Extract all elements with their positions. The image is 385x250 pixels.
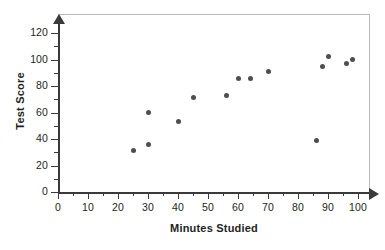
y-tick-major — [51, 166, 59, 167]
x-tick-minor — [283, 192, 284, 196]
y-tick-minor — [54, 99, 59, 100]
y-tick-label: 20 — [0, 159, 48, 171]
y-tick-label: 0 — [0, 185, 48, 197]
x-tick-major — [268, 192, 269, 199]
data-point — [146, 142, 151, 147]
y-tick-minor — [54, 152, 59, 153]
x-tick-minor — [103, 192, 104, 196]
data-point — [236, 76, 241, 81]
x-tick-label: 40 — [163, 201, 193, 213]
x-tick-major — [358, 192, 359, 199]
x-tick-minor — [313, 192, 314, 196]
x-tick-label: 70 — [253, 201, 283, 213]
x-tick-minor — [343, 192, 344, 196]
y-axis-line — [58, 22, 60, 193]
x-tick-major — [178, 192, 179, 199]
y-axis-arrow-icon — [53, 14, 65, 24]
data-point — [350, 57, 355, 62]
y-tick-minor — [54, 46, 59, 47]
data-point — [146, 110, 151, 115]
y-tick-major — [51, 113, 59, 114]
x-tick-major — [118, 192, 119, 199]
x-tick-label: 80 — [283, 201, 313, 213]
plot-frame-right-edge — [369, 14, 370, 196]
data-point — [266, 69, 271, 74]
scatter-chart: 020406080100120 0102030405060708090100 T… — [0, 0, 385, 250]
x-tick-major — [58, 192, 59, 199]
x-tick-major — [298, 192, 299, 199]
y-tick-major — [51, 86, 59, 87]
x-tick-minor — [193, 192, 194, 196]
y-tick-minor — [54, 179, 59, 180]
y-tick-major — [51, 33, 59, 34]
x-tick-label: 60 — [223, 201, 253, 213]
data-point — [176, 119, 181, 124]
x-tick-minor — [133, 192, 134, 196]
x-tick-label: 10 — [73, 201, 103, 213]
x-tick-major — [88, 192, 89, 199]
x-tick-major — [238, 192, 239, 199]
data-point — [344, 61, 349, 66]
data-point — [326, 54, 331, 59]
x-tick-minor — [253, 192, 254, 196]
data-point — [248, 76, 253, 81]
plot-frame — [58, 14, 370, 196]
x-tick-major — [148, 192, 149, 199]
x-tick-major — [328, 192, 329, 199]
y-tick-minor — [54, 126, 59, 127]
x-tick-minor — [223, 192, 224, 196]
y-tick-minor — [54, 73, 59, 74]
x-tick-minor — [73, 192, 74, 196]
y-tick-label: 120 — [0, 26, 48, 38]
x-tick-minor — [163, 192, 164, 196]
x-tick-label: 0 — [43, 201, 73, 213]
x-axis-arrow-icon — [369, 188, 379, 200]
x-axis-title: Minutes Studied — [58, 222, 370, 234]
x-tick-label: 90 — [313, 201, 343, 213]
x-axis-line — [58, 192, 374, 194]
y-tick-major — [51, 139, 59, 140]
x-tick-label: 100 — [343, 201, 373, 213]
x-tick-label: 20 — [103, 201, 133, 213]
y-axis-title: Test Score — [14, 46, 26, 156]
data-point — [314, 138, 319, 143]
x-tick-label: 50 — [193, 201, 223, 213]
y-tick-major — [51, 60, 59, 61]
data-point — [320, 64, 325, 69]
x-tick-label: 30 — [133, 201, 163, 213]
data-point — [224, 93, 229, 98]
x-tick-major — [208, 192, 209, 199]
